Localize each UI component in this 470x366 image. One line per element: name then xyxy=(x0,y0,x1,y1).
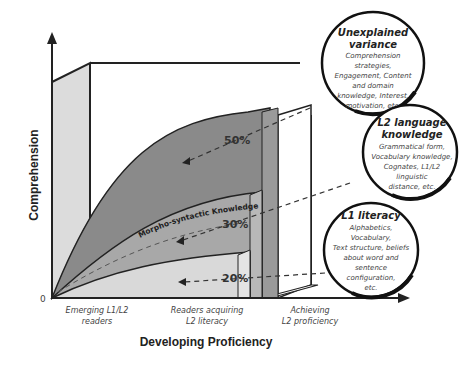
percent-label-30: 30% xyxy=(222,218,248,231)
x-axis-arrow-icon xyxy=(398,293,410,303)
svg-text:distance, etc.: distance, etc. xyxy=(388,183,435,191)
x-category-acquiring: Readers acquiring xyxy=(171,306,244,315)
svg-text:knowledge: knowledge xyxy=(381,129,442,140)
svg-text:etc.: etc. xyxy=(364,284,377,292)
svg-text:Vocabulary,: Vocabulary, xyxy=(351,234,392,242)
y-axis-arrow-icon xyxy=(47,32,57,44)
svg-text:sentence: sentence xyxy=(355,264,387,272)
bubble-l2-language-knowledge: L2 language knowledge Grammatical form, … xyxy=(363,105,457,199)
svg-text:Text structure, beliefs: Text structure, beliefs xyxy=(333,244,410,252)
x-category-achieving-line2: L2 proficiency xyxy=(282,317,339,326)
x-category-achieving: Achieving xyxy=(289,306,329,315)
x-category-acquiring-line2: L2 literacy xyxy=(186,317,228,326)
x-category-emerging-line2: readers xyxy=(82,317,113,326)
svg-text:Alphabetics,: Alphabetics, xyxy=(348,224,392,232)
svg-text:knowledge, Interest,: knowledge, Interest, xyxy=(337,92,409,100)
bubble-l1-literacy: L1 literacy Alphabetics, Vocabulary, Tex… xyxy=(324,203,418,297)
origin-label: 0 xyxy=(40,294,46,304)
svg-text:L2 language: L2 language xyxy=(377,117,446,128)
x-category-emerging: Emerging L1/L2 xyxy=(66,306,129,315)
x-axis-title: Developing Proficiency xyxy=(140,335,273,349)
svg-text:Comprehension: Comprehension xyxy=(345,52,400,60)
svg-text:Vocabulary knowledge,: Vocabulary knowledge, xyxy=(371,153,452,161)
bubble-unexplained-variance: Unexplained variance Comprehension strat… xyxy=(322,12,424,114)
svg-text:about word and: about word and xyxy=(343,254,399,262)
layer-unexplained-side xyxy=(262,108,278,298)
svg-text:and domain: and domain xyxy=(352,82,394,90)
svg-text:Engagement, Content: Engagement, Content xyxy=(335,72,412,80)
y-axis-title: Comprehension xyxy=(27,129,41,220)
svg-text:configuration,: configuration, xyxy=(347,274,396,282)
svg-text:L1 literacy: L1 literacy xyxy=(341,210,401,221)
svg-text:linguistic: linguistic xyxy=(396,173,427,181)
svg-text:Unexplained: Unexplained xyxy=(338,27,409,38)
svg-text:strategies,: strategies, xyxy=(354,62,391,70)
comprehension-diagram: Morpho-syntactic Knowledge 50% 30% 20% U… xyxy=(0,0,470,366)
percent-label-20: 20% xyxy=(222,272,248,285)
percent-label-50: 50% xyxy=(224,134,250,147)
svg-text:variance: variance xyxy=(349,39,397,50)
svg-text:Grammatical form,: Grammatical form, xyxy=(379,143,445,151)
svg-text:Cognates, L1/L2: Cognates, L1/L2 xyxy=(384,163,441,171)
